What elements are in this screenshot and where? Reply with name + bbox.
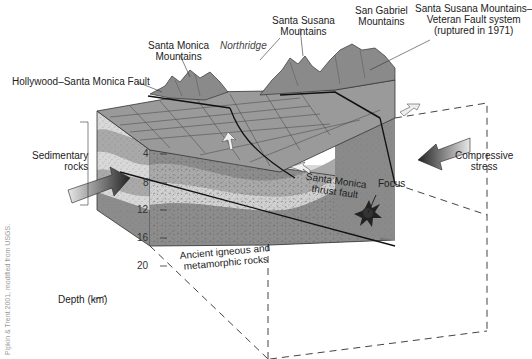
label-santa-monica-mountains: Santa Monica Mountains [148,40,209,62]
label-sedimentary-rocks: Sedimentary rocks [32,150,88,172]
depth-tick-16: 16 [137,232,148,243]
label-compressive-stress: Compressive stress [455,150,513,172]
depth-tick-8: 8 [143,177,149,188]
label-depth-axis: Depth (km) [58,294,107,305]
depth-tick-4: 4 [143,148,149,159]
depth-tick-20: 20 [137,260,148,271]
label-santa-susana-mountains: Santa Susana Mountains [272,15,335,37]
label-focus: Focus [378,178,405,189]
image-credit: Pipkin & Trent 2001, modified from USGS. [4,224,11,355]
label-san-gabriel-mountains: San Gabriel Mountains [355,5,408,27]
label-hollywood-fault: Hollywood–Santa Monica Fault [12,76,150,87]
label-fault-system: Santa Susana Mountains– Veteran Fault sy… [415,3,532,36]
label-northridge: Northridge [220,40,267,51]
depth-tick-12: 12 [137,204,148,215]
